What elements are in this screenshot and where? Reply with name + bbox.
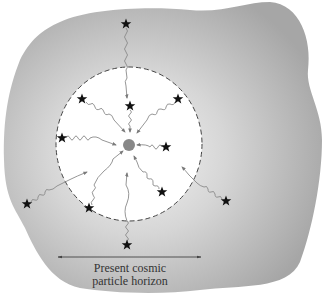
- caption-line-2: particle horizon: [60, 275, 200, 288]
- horizon-caption: Present cosmic particle horizon: [60, 262, 200, 288]
- observer-dot: [123, 139, 135, 151]
- particle-horizon-diagram: [0, 0, 324, 295]
